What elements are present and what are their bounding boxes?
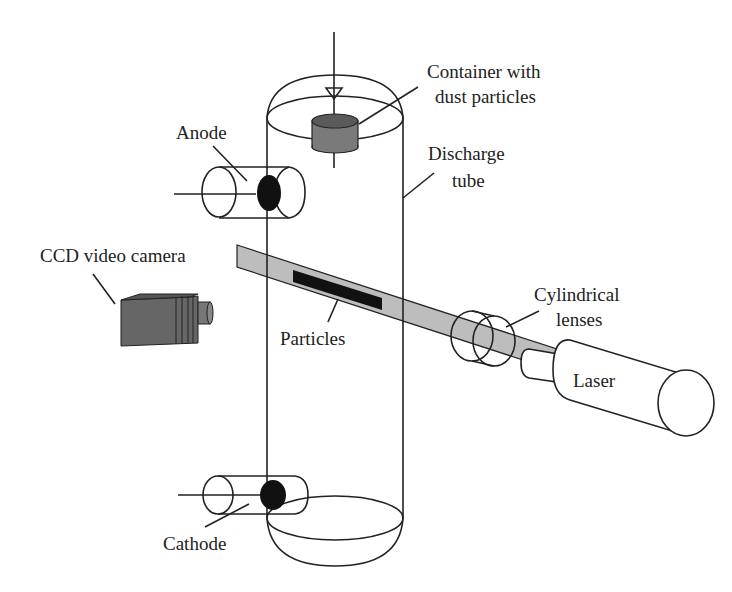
label-ccd-camera: CCD video camera (40, 245, 186, 266)
label-lenses-1: Cylindrical (534, 284, 619, 305)
leader-container (359, 87, 418, 124)
anode (174, 167, 305, 218)
label-particles: Particles (280, 328, 345, 349)
setup-diagram: Container with dust particles Discharge … (0, 0, 732, 592)
label-anode: Anode (176, 122, 227, 143)
label-container-2: dust particles (435, 86, 536, 107)
label-lenses-2: lenses (556, 309, 602, 330)
cathode (178, 476, 308, 514)
label-container-1: Container with (427, 61, 541, 82)
leader-cathode (205, 504, 249, 527)
label-laser: Laser (573, 370, 616, 391)
laser (521, 340, 714, 436)
label-tube-1: Discharge (428, 143, 505, 164)
leader-tube (403, 173, 434, 198)
leader-particles (328, 299, 338, 322)
label-tube-2: tube (452, 170, 485, 191)
ccd-camera (121, 294, 213, 346)
dust-container (312, 114, 358, 153)
leader-lenses (506, 311, 539, 327)
laser-sheet (237, 245, 560, 372)
leader-anode (213, 146, 247, 181)
leader-camera (93, 274, 115, 304)
label-cathode: Cathode (163, 533, 226, 554)
